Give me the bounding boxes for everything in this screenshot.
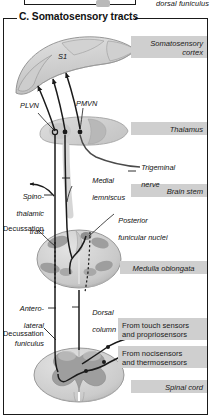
label-trigeminal-nerve: Trigeminal nerve: [133, 155, 175, 199]
dorsal-column-line1: Dorsal: [92, 308, 113, 317]
spinal-relay-dot: [84, 369, 88, 373]
trigeminal-line1: Trigeminal: [141, 163, 175, 172]
label-posterior-funicular-nuclei: Posterior funicular nuclei: [110, 208, 168, 252]
thalamus-text: Thalamus: [170, 125, 203, 134]
trigeminal-line2: nerve: [141, 180, 160, 189]
medial-lemniscus-line2: lemniscus: [92, 193, 125, 202]
medulla-oblongata-shape: [37, 230, 121, 288]
label-anterolateral-funiculus: Antero- lateral funiculus: [2, 296, 44, 358]
label-thalamus: Thalamus: [131, 122, 207, 135]
label-from-nocisensors: From nocisensors and thermosensors: [118, 346, 207, 368]
from-touch-line2: and propriosensors: [122, 330, 187, 339]
spinothalamic-line1: Spino-: [23, 192, 44, 201]
somatosensory-cortex-line2: cortex: [182, 48, 203, 57]
label-decussation-spinal: Decussation: [3, 330, 44, 339]
from-noci-line1: From nocisensors: [122, 349, 182, 358]
from-noci-line2: and thermosensors: [122, 358, 187, 367]
label-spinal-cord: Spinal cord: [131, 380, 207, 393]
label-dorsal-column: Dorsal column: [84, 300, 116, 344]
dorsal-column-line2: column: [92, 325, 116, 334]
label-from-touch-sensors: From touch sensors and propriosensors: [118, 318, 207, 340]
antlat-line1: Antero-: [20, 304, 44, 313]
label-medulla-oblongata: Medulla oblongata: [120, 261, 207, 274]
from-touch-line1: From touch sensors: [122, 321, 189, 330]
label-decussation-medulla: Decussation: [3, 225, 44, 234]
medial-lemniscus-line1: Medial: [92, 176, 114, 185]
label-somatosensory-cortex: Somatosensory cortex: [131, 36, 207, 58]
label-pmvn: PMVN: [76, 100, 97, 109]
spinal-cord-text: Spinal cord: [165, 383, 203, 392]
somatosensory-cortex-line1: Somatosensory: [150, 39, 203, 48]
label-medial-lemniscus: Medial lemniscus: [84, 168, 125, 212]
noci-afferent-dot: [102, 360, 106, 364]
spinothalamic-line2: thalamic: [16, 209, 44, 218]
post-fun-line2: funicular nuclei: [118, 233, 167, 242]
label-s1: S1: [58, 53, 67, 62]
label-plvn: PLVN: [20, 102, 39, 111]
antlat-line3: funiculus: [15, 339, 44, 348]
spinal-cord-shape: [34, 348, 124, 402]
figure-canvas: dorsal funiculus C. Somatosensory tracts: [0, 0, 211, 417]
label-spinothalamic-tract: Spino- thalamic tract: [2, 184, 44, 246]
somatosensory-cortex-shape: [16, 37, 136, 94]
touch-afferent-dot: [106, 345, 110, 349]
medulla-oblongata-text: Medulla oblongata: [132, 264, 194, 273]
post-fun-line1: Posterior: [118, 216, 148, 225]
